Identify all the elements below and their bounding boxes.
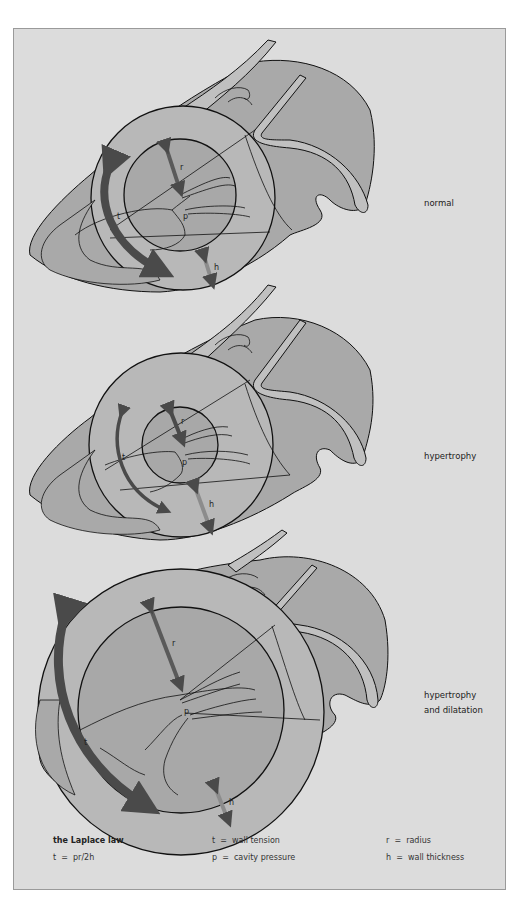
heart-hypertrophy-dilatation: r t p h (35, 530, 387, 855)
symbol-t-hypertrophy: t (122, 453, 125, 462)
label-normal: normal (424, 196, 454, 211)
legend-def-p: p = cavity pressure (212, 853, 295, 862)
heart-hypertrophy: r t p h (30, 285, 373, 540)
legend-def-r: r = radius (386, 836, 431, 845)
symbol-p-hypertrophy: p (182, 458, 187, 467)
symbol-h-dilatation: h (229, 798, 234, 807)
symbol-p-dilatation: p (184, 707, 189, 716)
label-hypertrophy-dilatation-line2: and dilatation (424, 703, 483, 718)
legend-def-t: t = wall tension (212, 836, 280, 845)
label-hypertrophy-dilatation-line1: hypertrophy (424, 688, 476, 703)
symbol-h-normal: h (214, 263, 219, 272)
symbol-t-dilatation: t (84, 738, 87, 747)
symbol-h-hypertrophy: h (209, 500, 214, 509)
legend-def-h: h = wall thickness (386, 853, 464, 862)
symbol-t-normal: t (117, 212, 120, 221)
legend-title: the Laplace law (53, 836, 124, 845)
label-hypertrophy: hypertrophy (424, 449, 476, 464)
legend-formula: t = pr/2h (53, 853, 94, 862)
heart-normal: r t p h (30, 40, 375, 292)
symbol-p-normal: p (183, 212, 188, 221)
